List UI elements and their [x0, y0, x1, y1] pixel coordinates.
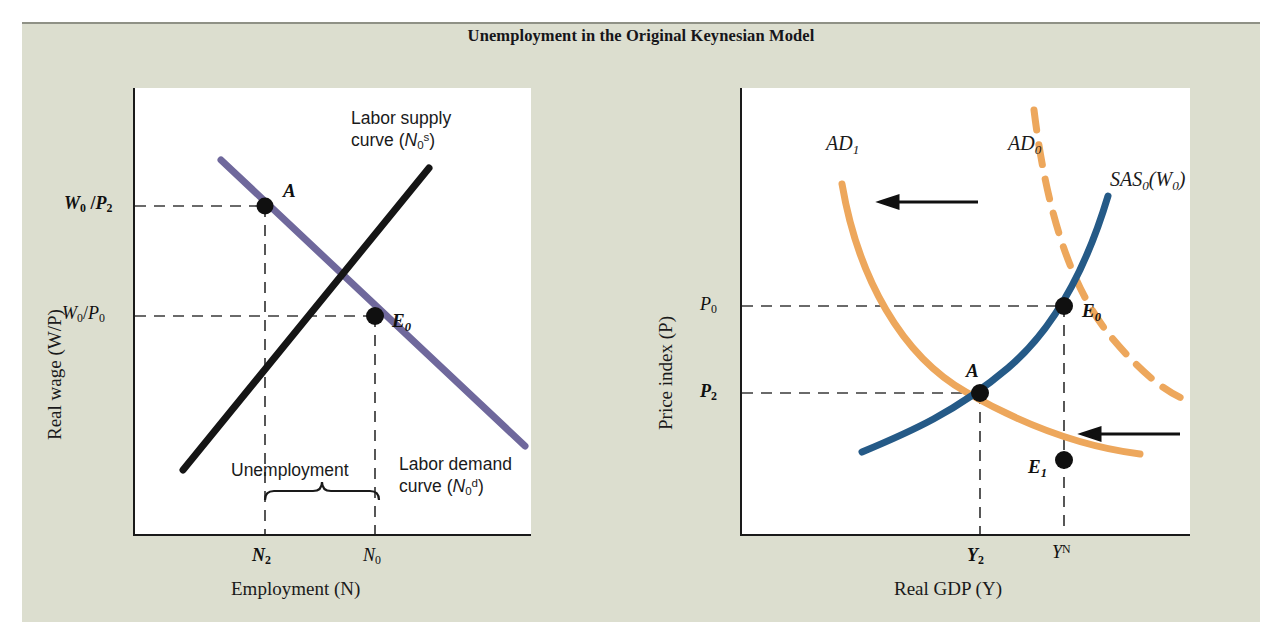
unemployment-brace-icon: [265, 482, 379, 500]
right-point-E0-dot: [1055, 297, 1073, 315]
left-point-A-dot: [257, 198, 274, 215]
left-xtick-N0: N0: [363, 545, 381, 568]
ad-sas-panel: AD1 AD0 SAS0(W0) E0 A E1: [740, 88, 1190, 536]
right-y-axis-label: Price index (P): [655, 316, 677, 430]
left-point-E0-dot: [366, 307, 384, 325]
ad0-curve: [1034, 110, 1186, 400]
left-point-E0-label: E0: [392, 310, 411, 335]
right-xtick-YN: YN: [1052, 542, 1071, 563]
labor-supply-label-line2: curve (N0s): [351, 130, 435, 150]
right-point-E0-label: E0: [1082, 300, 1101, 325]
right-panel-graphics: [740, 88, 1190, 536]
right-point-A-label: A: [966, 360, 979, 382]
shift-arrow-lower: [1082, 428, 1180, 440]
left-guide-lines: [135, 206, 375, 534]
labor-demand-label-line2: curve (N0d): [399, 476, 484, 496]
right-x-axis-label: Real GDP (Y): [894, 578, 1002, 600]
figure-title: Unemployment in the Original Keynesian M…: [0, 26, 1282, 46]
right-point-E1-label: E1: [1028, 456, 1047, 481]
right-ytick-P2: P2: [700, 381, 717, 404]
sas0-label: SAS0(W0): [1110, 168, 1185, 194]
unemployment-annotation: Unemployment: [231, 460, 349, 481]
labor-demand-label: Labor demand curve (N0d): [399, 454, 512, 499]
right-xtick-Y2: Y2: [967, 545, 984, 568]
left-ytick-W0P2: W0 /P2: [64, 193, 112, 216]
ad0-label: AD0: [1008, 132, 1041, 158]
labor-supply-label: Labor supply curve (N0s): [351, 108, 451, 153]
left-x-axis-label: Employment (N): [231, 578, 360, 600]
labor-supply-label-line1: Labor supply: [351, 108, 451, 128]
right-ytick-P0: P0: [700, 294, 717, 317]
left-point-A-label: A: [283, 180, 296, 202]
left-y-axis-label: Real wage (W/P): [44, 309, 66, 440]
right-point-E1-dot: [1055, 451, 1073, 469]
left-ytick-W0P0: W0/P0: [62, 303, 105, 326]
labor-market-panel: Labor supply curve (N0s) Labor demand cu…: [133, 88, 531, 536]
left-xtick-N2: N2: [252, 545, 271, 568]
shift-arrow-upper: [880, 196, 978, 208]
ad1-label: AD1: [826, 132, 859, 158]
labor-demand-label-line1: Labor demand: [399, 454, 512, 474]
figure-container: Unemployment in the Original Keynesian M…: [0, 0, 1282, 634]
right-point-A-dot: [971, 384, 989, 402]
